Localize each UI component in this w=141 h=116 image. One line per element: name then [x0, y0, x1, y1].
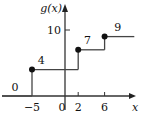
segment-value-label: 7 — [84, 34, 91, 47]
y-tick-label: 10 — [47, 24, 61, 37]
y-axis-label: g(x) — [40, 2, 62, 15]
closed-endpoint — [29, 67, 35, 73]
x-tick-label: 2 — [75, 101, 82, 114]
x-axis-arrow — [129, 93, 136, 99]
segment-value-label: 0 — [12, 81, 19, 94]
x-tick-label: 0 — [59, 101, 66, 114]
segment-value-label: 4 — [38, 54, 45, 67]
segment-value-label: 9 — [114, 21, 121, 34]
x-tick-label: −5 — [24, 101, 40, 114]
x-axis-label: x — [132, 101, 139, 114]
closed-endpoint — [102, 34, 108, 40]
closed-endpoint — [75, 47, 81, 53]
y-axis-arrow — [62, 4, 68, 12]
x-tick-label: 6 — [101, 101, 108, 114]
step-function-chart: −502610g(x)x0479 — [0, 0, 141, 116]
